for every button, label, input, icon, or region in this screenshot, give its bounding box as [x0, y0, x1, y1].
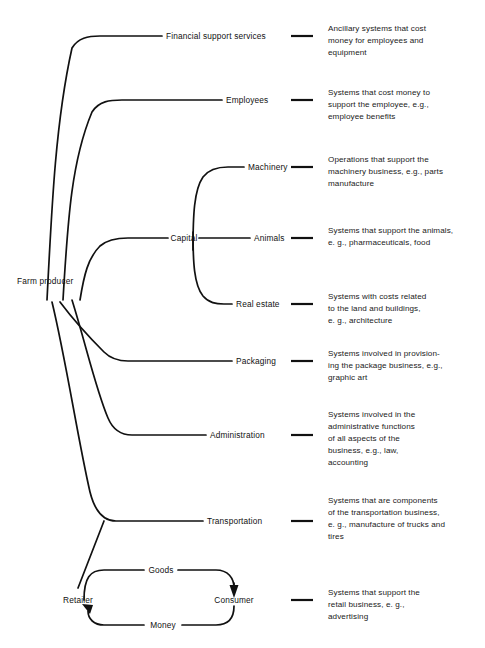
description-line: manufacture	[328, 178, 485, 190]
edge-money-right	[182, 606, 234, 625]
node-retailer[interactable]: Retailer	[63, 596, 93, 604]
node-real-estate[interactable]: Real estate	[236, 300, 280, 308]
diagram-canvas: Farm producer Financial support services…	[0, 0, 485, 648]
description-line: employee benefits	[328, 111, 485, 123]
description-line: tires	[328, 531, 485, 543]
description-line: Systems involved in provision-	[328, 348, 485, 360]
description-real-estate: Systems with costs relatedto the land an…	[328, 291, 485, 327]
flow-label-goods: Goods	[146, 565, 175, 575]
edge-transportation	[52, 302, 203, 521]
node-farm-producer[interactable]: Farm producer	[17, 277, 73, 285]
description-line: equipment	[328, 47, 485, 59]
description-line: accounting	[328, 457, 485, 469]
description-line: e. g., architecture	[328, 315, 485, 327]
description-line: Systems that support the	[328, 587, 485, 599]
description-line: ing the package business, e.g.,	[328, 360, 485, 372]
edge-goods-right	[178, 570, 234, 588]
description-line: of all aspects of the	[328, 433, 485, 445]
node-animals[interactable]: Animals	[254, 234, 285, 242]
description-line: to the land and buildings,	[328, 303, 485, 315]
description-line: of the transportation business,	[328, 507, 485, 519]
edge-packaging	[60, 302, 232, 361]
description-line: administrative functions	[328, 421, 485, 433]
description-line: Systems involved in the	[328, 409, 485, 421]
edge-financial-support-services	[47, 36, 162, 300]
description-line: business, e.g., law,	[328, 445, 485, 457]
description-dashes	[291, 36, 313, 600]
edge-transportation-retailer	[78, 521, 104, 588]
description-line: Systems with costs related	[328, 291, 485, 303]
description-employees: Systems that cost money tosupport the em…	[328, 87, 485, 123]
description-line: e. g., manufacture of trucks and	[328, 519, 485, 531]
description-line: graphic art	[328, 372, 485, 384]
edge-capital	[80, 238, 168, 300]
description-packaging: Systems involved in provision-ing the pa…	[328, 348, 485, 384]
description-line: support the employee, e.g.,	[328, 99, 485, 111]
node-capital[interactable]: Capital	[171, 234, 198, 242]
node-transportation[interactable]: Transportation	[207, 517, 262, 525]
flow-label-money: Money	[148, 620, 178, 630]
edge-money-left	[88, 611, 144, 625]
edge-administration	[72, 300, 206, 435]
node-financial-support-services[interactable]: Financial support services	[166, 32, 266, 40]
description-financial-support-services: Ancillary systems that costmoney for emp…	[328, 23, 485, 59]
description-line: e. g., pharmaceuticals, food	[328, 237, 485, 249]
description-line: Operations that support the	[328, 154, 485, 166]
node-employees[interactable]: Employees	[226, 96, 268, 104]
description-line: retail business, e. g.,	[328, 599, 485, 611]
description-animals: Systems that support the animals,e. g., …	[328, 225, 485, 249]
description-administration: Systems involved in theadministrative fu…	[328, 409, 485, 469]
description-line: Systems that support the animals,	[328, 225, 485, 237]
description-line: Ancillary systems that cost	[328, 23, 485, 35]
description-line: money for employees and	[328, 35, 485, 47]
description-machinery: Operations that support themachinery bus…	[328, 154, 485, 190]
description-transportation: Systems that are componentsof the transp…	[328, 495, 485, 543]
description-consumer: Systems that support theretail business,…	[328, 587, 485, 623]
node-packaging[interactable]: Packaging	[236, 357, 276, 365]
node-administration[interactable]: Administration	[210, 431, 265, 439]
description-line: machinery business, e.g., parts	[328, 166, 485, 178]
description-line: advertising	[328, 611, 485, 623]
description-line: Systems that cost money to	[328, 87, 485, 99]
edge-real-estate	[193, 232, 232, 304]
description-line: Systems that are components	[328, 495, 485, 507]
node-machinery[interactable]: Machinery	[248, 163, 288, 171]
node-consumer[interactable]: Consumer	[214, 596, 253, 604]
